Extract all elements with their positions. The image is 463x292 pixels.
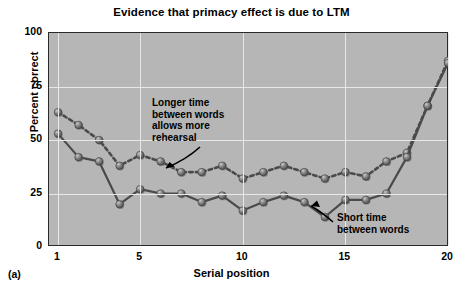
arrow-short-head — [311, 201, 320, 208]
figure-panel: Evidence that primacy effect is due to L… — [0, 0, 463, 292]
annotation-arrows — [0, 0, 463, 292]
arrow-short-curve — [311, 206, 333, 222]
